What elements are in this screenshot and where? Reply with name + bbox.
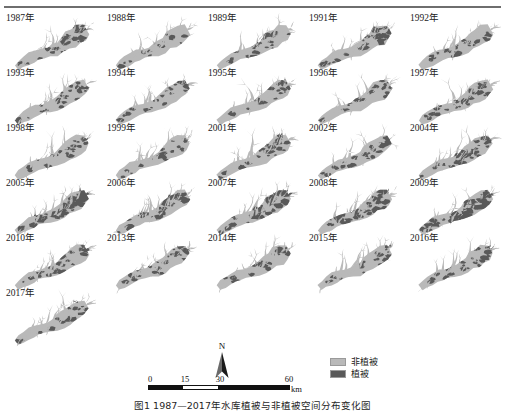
map-panel: 1997年 [404, 67, 505, 130]
map-panel: 1988年 [101, 12, 202, 75]
map-panel: 2016年 [404, 232, 505, 295]
map-panel-year-label: 1997年 [410, 68, 439, 78]
nonvegetation-tributaries [115, 16, 198, 70]
scale-bar-segment-1 [149, 386, 183, 389]
map-panel-year-label: 2006年 [107, 178, 136, 188]
scale-bar-graphic [148, 385, 290, 390]
map-panel: 2007年 [202, 177, 303, 240]
map-panel-year-label: 2005年 [6, 178, 35, 188]
map-panel: 2017年 [0, 287, 101, 350]
map-panel: 2015年 [303, 232, 404, 295]
scale-bar-tick-60: 60 [285, 374, 294, 384]
map-panel-year-label: 2009年 [410, 178, 439, 188]
map-panel-year-label: 2010年 [6, 233, 35, 243]
map-panel: 1994年 [101, 67, 202, 130]
legend-swatch-vegetation [330, 370, 346, 378]
map-panel: 2002年 [303, 122, 404, 185]
map-panel-year-label: 2016年 [410, 233, 439, 243]
map-panel-year-label: 1992年 [410, 13, 439, 23]
map-panel: 1999年 [101, 122, 202, 185]
map-panel-year-label: 2007年 [208, 178, 237, 188]
map-panel-year-label: 1995年 [208, 68, 237, 78]
map-panel-year-label: 1996年 [309, 68, 338, 78]
map-panel-year-label: 2004年 [410, 123, 439, 133]
map-panel-year-label: 2017年 [6, 288, 35, 298]
map-panel: 1998年 [0, 122, 101, 185]
legend-label-vegetation: 植被 [351, 369, 369, 379]
map-panel: 1992年 [404, 12, 505, 75]
map-panel-year-label: 1988年 [107, 13, 136, 23]
map-panel-year-label: 1993年 [6, 68, 35, 78]
map-panel-year-label: 1989年 [208, 13, 237, 23]
scale-bar-tick-15: 15 [181, 374, 190, 384]
map-panel: 2010年 [0, 232, 101, 295]
legend-label-nonvegetation: 非植被 [351, 357, 378, 367]
map-panel: 2014年 [202, 232, 303, 295]
map-panel-year-label: 1999年 [107, 123, 136, 133]
map-panel-year-label: 2008年 [309, 178, 338, 188]
map-panel: 2005年 [0, 177, 101, 240]
legend-item-vegetation: 植被 [330, 368, 420, 379]
map-panel: 1989年 [202, 12, 303, 75]
map-panel: 1991年 [303, 12, 404, 75]
scale-bar-ticks: 0 15 30 60 [148, 374, 298, 385]
figure-container: 1987年1988年1989年1991年1992年1993年1994年1995年… [0, 0, 505, 414]
map-panel: 2013年 [101, 232, 202, 295]
map-panel-year-label: 1991年 [309, 13, 338, 23]
map-panel-year-label: 1994年 [107, 68, 136, 78]
legend-swatch-nonvegetation [330, 358, 346, 366]
map-panel-year-label: 2013年 [107, 233, 136, 243]
map-panel-year-label: 2015年 [309, 233, 338, 243]
figure-caption: 图1 1987—2017年水库植被与非植被空间分布变化图 [0, 400, 505, 412]
map-panel-year-label: 1998年 [6, 123, 35, 133]
scale-bar-segment-2 [183, 386, 217, 389]
scale-bar: 0 15 30 60 km [148, 374, 298, 392]
legend: 非植被 植被 [330, 356, 420, 380]
map-panel-year-label: 2014年 [208, 233, 237, 243]
map-panel: 2006年 [101, 177, 202, 240]
top-divider [4, 6, 501, 8]
scale-bar-tick-0: 0 [148, 374, 152, 384]
map-small-multiples-grid: 1987年1988年1989年1991年1992年1993年1994年1995年… [0, 12, 505, 342]
nonvegetation-area [116, 81, 190, 126]
legend-item-nonvegetation: 非植被 [330, 356, 420, 367]
map-panel: 2009年 [404, 177, 505, 240]
map-panel: 1993年 [0, 67, 101, 130]
map-panel: 1995年 [202, 67, 303, 130]
scale-bar-tick-30: 30 [216, 374, 225, 384]
scale-bar-unit: km [291, 384, 302, 394]
north-arrow-label: N [207, 341, 237, 351]
scale-bar-segment-3 [218, 386, 289, 389]
map-panel: 1987年 [0, 12, 101, 75]
map-panel: 2004年 [404, 122, 505, 185]
map-panel-year-label: 2002年 [309, 123, 338, 133]
map-panel-year-label: 1987年 [6, 13, 35, 23]
map-panel: 2001年 [202, 122, 303, 185]
map-panel-year-label: 2001年 [208, 123, 237, 133]
map-panel: 1996年 [303, 67, 404, 130]
map-panel: 2008年 [303, 177, 404, 240]
